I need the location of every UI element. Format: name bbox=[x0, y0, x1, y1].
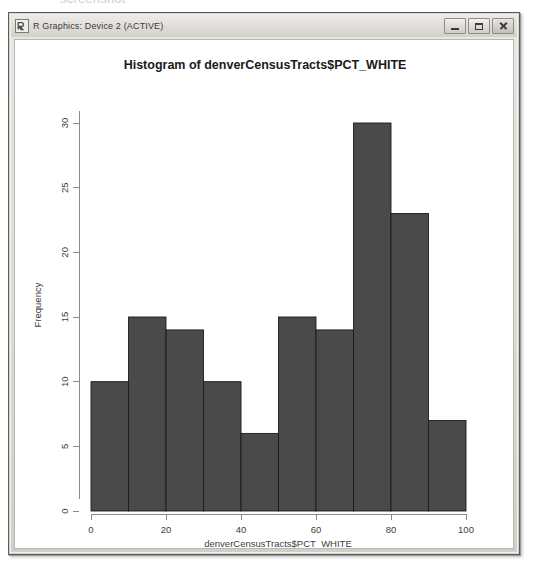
plot-canvas: Histogram of denverCensusTracts$PCT_WHIT… bbox=[14, 39, 514, 549]
maximize-button[interactable] bbox=[468, 18, 490, 34]
x-axis-tick-label: 100 bbox=[458, 524, 474, 535]
histogram-bar bbox=[91, 382, 129, 511]
y-axis: 051015202530 bbox=[59, 111, 79, 514]
y-axis-label: Frequency bbox=[32, 282, 43, 327]
x-axis-tick-label: 20 bbox=[161, 524, 172, 535]
histogram-bar bbox=[354, 123, 392, 511]
histogram-bar bbox=[204, 382, 242, 511]
histogram-bar bbox=[279, 317, 317, 511]
histogram-bar bbox=[241, 433, 279, 511]
y-axis-tick-label: 15 bbox=[59, 312, 70, 323]
y-axis-tick-label: 25 bbox=[59, 182, 70, 193]
r-graphics-window: R Graphics: Device 2 (ACTIVE) Histogram … bbox=[8, 12, 520, 555]
histogram-bar bbox=[391, 214, 429, 511]
maximize-icon bbox=[475, 23, 483, 30]
histogram-plot: Histogram of denverCensusTracts$PCT_WHIT… bbox=[15, 40, 514, 549]
histogram-bar bbox=[429, 420, 467, 511]
scan-artifact-text: screenshot bbox=[60, 0, 126, 6]
y-axis-tick-label: 30 bbox=[59, 118, 70, 129]
y-axis-tick-label: 5 bbox=[59, 444, 70, 449]
x-axis-tick-label: 40 bbox=[236, 524, 247, 535]
x-axis-tick-label: 0 bbox=[88, 524, 93, 535]
x-axis: 020406080100 bbox=[88, 514, 474, 535]
close-button[interactable] bbox=[492, 18, 514, 34]
histogram-bar bbox=[166, 330, 204, 511]
r-logo-icon bbox=[15, 19, 29, 33]
y-axis-tick-label: 0 bbox=[59, 508, 70, 513]
y-axis-tick-label: 10 bbox=[59, 376, 70, 387]
y-axis-tick-label: 20 bbox=[59, 247, 70, 258]
window-title: R Graphics: Device 2 (ACTIVE) bbox=[33, 21, 444, 31]
chart-title: Histogram of denverCensusTracts$PCT_WHIT… bbox=[124, 58, 407, 72]
window-controls bbox=[444, 18, 514, 34]
window-inner-frame: R Graphics: Device 2 (ACTIVE) Histogram … bbox=[10, 14, 518, 553]
title-bar[interactable]: R Graphics: Device 2 (ACTIVE) bbox=[11, 15, 517, 37]
minimize-button[interactable] bbox=[444, 18, 466, 34]
histogram-bar bbox=[316, 330, 354, 511]
close-icon bbox=[499, 22, 507, 30]
x-axis-label: denverCensusTracts$PCT_WHITE bbox=[204, 538, 351, 549]
minimize-icon bbox=[451, 28, 459, 30]
histogram-bars bbox=[91, 123, 466, 511]
histogram-bar bbox=[129, 317, 167, 511]
x-axis-tick-label: 60 bbox=[311, 524, 322, 535]
x-axis-tick-label: 80 bbox=[386, 524, 397, 535]
